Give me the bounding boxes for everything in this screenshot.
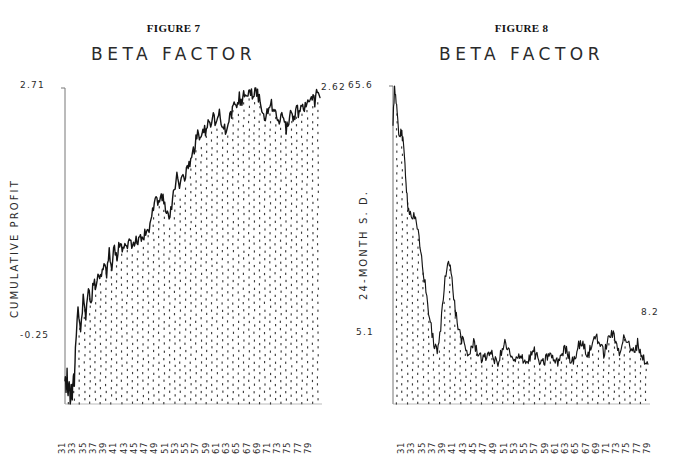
x-tick-label: 71 <box>262 442 272 454</box>
x-tick-label: 41 <box>447 442 457 454</box>
x-tick-label: 63 <box>221 442 231 454</box>
x-tick-label: 77 <box>293 442 303 454</box>
figures-page: { "page": { "background": "#ffffff", "in… <box>0 0 695 465</box>
x-tick-label: 67 <box>581 442 591 454</box>
x-tick-label: 41 <box>108 442 118 454</box>
x-tick-label: 71 <box>601 442 611 454</box>
x-tick-label: 69 <box>591 442 601 454</box>
x-tick-label: 43 <box>458 442 468 454</box>
x-tick-label: 45 <box>468 442 478 454</box>
figure-7-plot <box>0 0 347 465</box>
figure-8-plot <box>348 0 695 465</box>
x-tick-label: 43 <box>119 442 129 454</box>
figure-panel-7: FIGURE 7 BETA FACTOR CUMULATIVE PROFIT 2… <box>0 0 347 465</box>
x-tick-label: 59 <box>201 442 211 454</box>
x-tick-label: 49 <box>149 442 159 454</box>
x-tick-label: 73 <box>272 442 282 454</box>
x-tick-label: 69 <box>252 442 262 454</box>
x-tick-label: 39 <box>98 442 108 454</box>
x-tick-label: 75 <box>621 442 631 454</box>
x-tick-label: 61 <box>550 442 560 454</box>
x-tick-label: 59 <box>540 442 550 454</box>
x-tick-label: 31 <box>396 442 406 454</box>
x-tick-label: 55 <box>519 442 529 454</box>
x-tick-label: 79 <box>642 442 652 454</box>
x-tick-label: 33 <box>406 442 416 454</box>
x-tick-label: 65 <box>231 442 241 454</box>
x-tick-label: 55 <box>180 442 190 454</box>
x-tick-label: 39 <box>437 442 447 454</box>
x-tick-label: 37 <box>88 442 98 454</box>
x-tick-label: 51 <box>160 442 170 454</box>
x-tick-label: 37 <box>427 442 437 454</box>
x-tick-label: 57 <box>529 442 539 454</box>
x-tick-label: 57 <box>190 442 200 454</box>
x-tick-label: 47 <box>139 442 149 454</box>
x-tick-label: 53 <box>170 442 180 454</box>
x-tick-label: 73 <box>611 442 621 454</box>
x-tick-label: 79 <box>303 442 313 454</box>
x-tick-label: 45 <box>129 442 139 454</box>
x-tick-label: 33 <box>67 442 77 454</box>
x-tick-label: 53 <box>509 442 519 454</box>
x-tick-label: 67 <box>242 442 252 454</box>
x-tick-label: 65 <box>570 442 580 454</box>
x-tick-label: 35 <box>417 442 427 454</box>
x-tick-label: 47 <box>478 442 488 454</box>
x-tick-label: 75 <box>282 442 292 454</box>
x-tick-label: 63 <box>560 442 570 454</box>
figure-7-x-tick-labels: 3133353739414345474951535557596163656769… <box>65 410 321 456</box>
x-tick-label: 31 <box>57 442 67 454</box>
x-tick-label: 49 <box>488 442 498 454</box>
x-tick-label: 77 <box>632 442 642 454</box>
x-tick-label: 51 <box>499 442 509 454</box>
figure-panel-8: FIGURE 8 BETA FACTOR 24-MONTH S. D. 65.6… <box>348 0 695 465</box>
x-tick-label: 35 <box>78 442 88 454</box>
figure-8-x-tick-labels: 3133353739414345474951535557596163656769… <box>404 410 660 456</box>
x-tick-label: 61 <box>211 442 221 454</box>
